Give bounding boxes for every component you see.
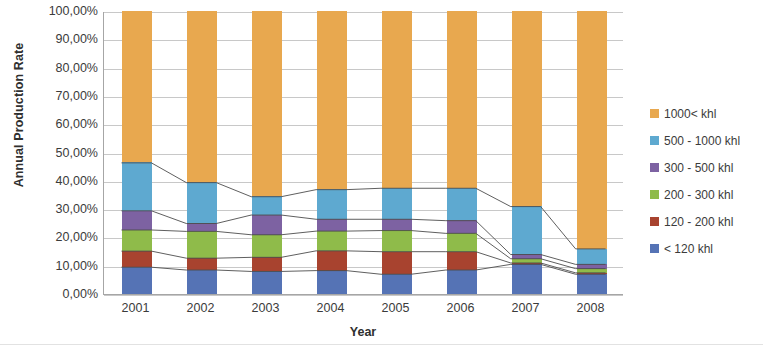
bar-2004[interactable] [317, 11, 347, 294]
bar-segment[interactable] [447, 270, 477, 294]
chart-legend: 1000< khl500 - 1000 khl300 - 500 khl200 … [650, 100, 763, 262]
bar-segment[interactable] [187, 223, 217, 231]
y-axis-tick-label: 10,00% [14, 259, 98, 273]
gridline [104, 154, 623, 155]
bar-segment[interactable] [512, 264, 542, 294]
gridline [104, 267, 623, 268]
bar-segment[interactable] [382, 274, 412, 294]
stacked-bar-chart: Annual Production Rate 100,00%90,00%80,0… [0, 0, 763, 345]
bar-segment[interactable] [577, 273, 607, 274]
bar-segment[interactable] [512, 263, 542, 264]
bar-segment[interactable] [252, 271, 282, 294]
bar-segment[interactable] [317, 251, 347, 271]
bar-segment[interactable] [577, 264, 607, 268]
bar-segment[interactable] [512, 11, 542, 206]
bar-segment[interactable] [187, 11, 217, 182]
gridline [104, 295, 623, 296]
y-axis-tick-label: 40,00% [14, 174, 98, 188]
legend-swatch-icon [650, 109, 659, 118]
bar-2003[interactable] [252, 11, 282, 294]
bar-segment[interactable] [317, 189, 347, 219]
bar-segment[interactable] [187, 270, 217, 294]
bar-segment[interactable] [447, 11, 477, 188]
gridline [104, 69, 623, 70]
bar-2005[interactable] [382, 11, 412, 294]
bar-segment[interactable] [187, 231, 217, 258]
y-axis-tick-label: 60,00% [14, 117, 98, 131]
bar-segment[interactable] [512, 259, 542, 263]
bar-segment[interactable] [317, 271, 347, 294]
x-axis-tick-label: 2004 [301, 301, 361, 315]
bar-segment[interactable] [447, 188, 477, 221]
legend-item[interactable]: 200 - 300 khl [650, 181, 763, 208]
bar-segment[interactable] [577, 269, 607, 273]
y-axis-tick-label: 70,00% [14, 89, 98, 103]
bar-2007[interactable] [512, 11, 542, 294]
bar-2002[interactable] [187, 11, 217, 294]
legend-swatch-icon [650, 244, 659, 253]
legend-item[interactable]: < 120 khl [650, 235, 763, 262]
bar-segment[interactable] [317, 219, 347, 231]
bar-segment[interactable] [512, 206, 542, 254]
bar-segment[interactable] [577, 249, 607, 265]
gridline [104, 210, 623, 211]
legend-label: 500 - 1000 khl [664, 134, 740, 148]
legend-label: < 120 khl [664, 242, 713, 256]
gridline [104, 125, 623, 126]
y-axis-tick-label: 50,00% [14, 146, 98, 160]
bar-2006[interactable] [447, 11, 477, 294]
bar-segment[interactable] [122, 230, 152, 251]
bar-segment[interactable] [122, 162, 152, 210]
bar-segment[interactable] [317, 231, 347, 251]
x-axis-tick-label: 2003 [236, 301, 296, 315]
y-axis-tick-label: 20,00% [14, 230, 98, 244]
bar-segment[interactable] [512, 254, 542, 258]
bar-segment[interactable] [252, 235, 282, 258]
y-axis-tick-label: 80,00% [14, 61, 98, 75]
bar-segment[interactable] [382, 230, 412, 251]
bar-2008[interactable] [577, 11, 607, 294]
legend-swatch-icon [650, 163, 659, 172]
bar-segment[interactable] [122, 11, 152, 162]
legend-label: 300 - 500 khl [664, 161, 733, 175]
bar-segment[interactable] [447, 220, 477, 233]
x-axis-tick-label: 2006 [431, 301, 491, 315]
gridline [104, 40, 623, 41]
legend-swatch-icon [650, 136, 659, 145]
legend-item[interactable]: 300 - 500 khl [650, 154, 763, 181]
bar-segment[interactable] [382, 188, 412, 219]
bar-segment[interactable] [252, 215, 282, 235]
bar-segment[interactable] [187, 182, 217, 223]
bar-segment[interactable] [577, 274, 607, 294]
bar-segment[interactable] [122, 211, 152, 230]
legend-label: 1000< khl [664, 107, 716, 121]
bar-segment[interactable] [252, 257, 282, 271]
bar-segment[interactable] [382, 11, 412, 188]
bar-segment[interactable] [382, 252, 412, 275]
x-axis-tick-label: 2007 [496, 301, 556, 315]
gridline [104, 12, 623, 13]
bar-segment[interactable] [252, 196, 282, 214]
bar-segment[interactable] [122, 267, 152, 294]
bar-segment[interactable] [122, 251, 152, 267]
y-axis-tick-label: 90,00% [14, 32, 98, 46]
legend-item[interactable]: 500 - 1000 khl [650, 127, 763, 154]
bar-segment[interactable] [252, 11, 282, 196]
bar-segment[interactable] [447, 252, 477, 270]
x-axis-tick-label: 2001 [106, 301, 166, 315]
gridline [104, 182, 623, 183]
legend-item[interactable]: 120 - 200 khl [650, 208, 763, 235]
bar-segment[interactable] [317, 11, 347, 189]
bar-2001[interactable] [122, 11, 152, 294]
bar-segment[interactable] [577, 11, 607, 249]
bar-segment[interactable] [382, 219, 412, 230]
legend-label: 200 - 300 khl [664, 188, 733, 202]
y-axis-tick-label: 30,00% [14, 202, 98, 216]
gridline [104, 238, 623, 239]
x-axis-title: Year [103, 325, 623, 339]
plot-area [103, 12, 623, 295]
bar-segment[interactable] [447, 233, 477, 251]
bar-segment[interactable] [187, 258, 217, 270]
legend-item[interactable]: 1000< khl [650, 100, 763, 127]
x-axis-tick-label: 2002 [171, 301, 231, 315]
